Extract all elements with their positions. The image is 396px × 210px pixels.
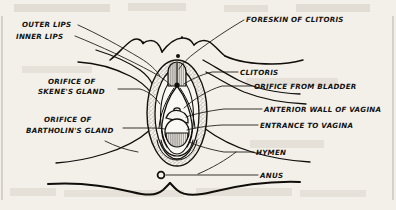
label-foreskin-of-clitoris: FORESKIN OF CLITORIS — [246, 15, 344, 24]
pubic-dot-1 — [142, 41, 144, 43]
mons-center-curve — [162, 38, 194, 52]
label-skenes-gland-line2: SKENE'S GLAND — [38, 87, 105, 96]
label-entrance-to-vagina: ENTRANCE TO VAGINA — [260, 121, 353, 130]
label-inner-lips: INNER LIPS — [16, 32, 63, 41]
vulva-structure-group — [147, 60, 207, 166]
leader-anus-aux — [198, 152, 236, 174]
label-clitoris: CLITORIS — [240, 68, 278, 77]
pubic-dot-3 — [176, 54, 180, 58]
mons-right-curve — [194, 41, 225, 56]
mons-right-tail — [225, 56, 303, 64]
label-anterior-wall-of-vagina: ANTERIOR WALL OF VAGINA — [263, 105, 381, 114]
mons-center-left-curve — [143, 41, 162, 52]
anatomy-diagram-svg: OUTER LIPS INNER LIPS ORIFICE OF SKENE'S… — [0, 0, 396, 210]
label-outer-lips: OUTER LIPS — [22, 20, 71, 29]
anus-opening — [158, 172, 165, 179]
label-orifice-from-bladder: ORIFICE FROM BLADDER — [254, 82, 357, 91]
diagram-page: OUTER LIPS INNER LIPS ORIFICE OF SKENE'S… — [0, 0, 396, 210]
label-bartholins-gland-line1: ORIFICE OF — [44, 115, 92, 124]
label-bartholins-gland-line2: BARTHOLIN'S GLAND — [26, 126, 114, 135]
leader-foreskin-of-clitoris — [179, 20, 244, 69]
anus-marker-group — [158, 172, 165, 179]
label-hymen: HYMEN — [256, 148, 286, 157]
pubic-dot-2 — [181, 36, 183, 38]
label-skenes-gland-line1: ORIFICE OF — [48, 77, 96, 86]
label-anus: ANUS — [259, 171, 283, 180]
